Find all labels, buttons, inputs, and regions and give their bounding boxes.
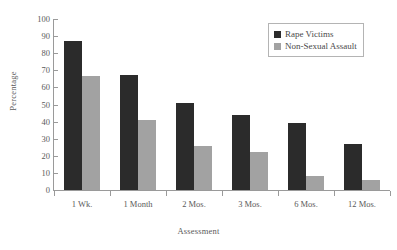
y-axis-tick-label: 40 bbox=[42, 117, 51, 127]
bar bbox=[306, 176, 324, 190]
y-axis-tick: 70 bbox=[0, 65, 60, 75]
legend-swatch-icon bbox=[274, 31, 281, 38]
legend-label: Rape Victims bbox=[285, 28, 334, 40]
bar-chart: Percentage 1009080706050403020100 1 Wk.1… bbox=[0, 0, 397, 250]
bar-group bbox=[64, 19, 100, 190]
y-axis-tick-label: 0 bbox=[46, 185, 50, 195]
bar bbox=[232, 115, 250, 190]
legend-swatch-icon bbox=[274, 43, 281, 50]
x-axis-tick-mark bbox=[166, 191, 167, 196]
x-axis-tick-mark bbox=[278, 191, 279, 196]
y-axis-tick-label: 70 bbox=[42, 65, 51, 75]
bar bbox=[194, 146, 212, 190]
bar bbox=[344, 144, 362, 190]
legend-entry: Rape Victims bbox=[274, 28, 357, 40]
bar-group bbox=[120, 19, 156, 190]
chart-legend: Rape VictimsNon-Sexual Assault bbox=[268, 23, 364, 57]
legend-label: Non-Sexual Assault bbox=[285, 40, 357, 52]
y-axis-tick-label: 20 bbox=[42, 151, 51, 161]
x-axis-title: Assessment bbox=[0, 226, 397, 236]
legend-entry: Non-Sexual Assault bbox=[274, 40, 357, 52]
y-axis-tick-label: 50 bbox=[42, 100, 51, 110]
bar bbox=[120, 75, 138, 190]
bar bbox=[250, 152, 268, 190]
y-axis-tick: 90 bbox=[0, 31, 60, 41]
x-axis-tick-mark bbox=[54, 191, 55, 196]
bar-group bbox=[232, 19, 268, 190]
x-axis-tick-mark bbox=[222, 191, 223, 196]
y-axis-tick-label: 10 bbox=[42, 168, 51, 178]
bar bbox=[362, 180, 380, 190]
bar bbox=[82, 76, 100, 190]
x-axis-tick-label: 12 Mos. bbox=[327, 199, 397, 209]
y-axis-tick: 40 bbox=[0, 117, 60, 127]
y-axis-tick-label: 30 bbox=[42, 134, 51, 144]
y-axis-tick: 80 bbox=[0, 48, 60, 58]
bar bbox=[138, 120, 156, 190]
y-axis-tick: 50 bbox=[0, 100, 60, 110]
y-axis-tick-label: 60 bbox=[42, 82, 51, 92]
x-axis-tick-mark bbox=[334, 191, 335, 196]
y-axis-tick: 30 bbox=[0, 134, 60, 144]
x-axis-tick-mark bbox=[390, 191, 391, 196]
y-axis-tick: 60 bbox=[0, 82, 60, 92]
y-axis-tick-label: 90 bbox=[42, 31, 51, 41]
bar-group bbox=[176, 19, 212, 190]
y-axis-tick: 10 bbox=[0, 168, 60, 178]
y-axis-tick: 100 bbox=[0, 14, 60, 24]
bar bbox=[288, 123, 306, 190]
y-axis-tick-label: 100 bbox=[37, 14, 50, 24]
x-axis-tick-mark bbox=[110, 191, 111, 196]
y-axis-tick: 20 bbox=[0, 151, 60, 161]
y-axis-tick: 0 bbox=[0, 185, 60, 195]
bar bbox=[64, 41, 82, 190]
y-axis-tick-label: 80 bbox=[42, 48, 51, 58]
bar bbox=[176, 103, 194, 190]
